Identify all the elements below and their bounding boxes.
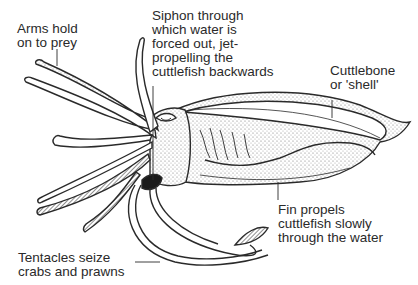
body-mantle [175, 92, 410, 185]
tentacles [128, 185, 268, 265]
label-fin: Fin propels cuttlefish slowly through th… [278, 203, 383, 245]
arms [25, 38, 158, 232]
label-siphon: Siphon through which water is forced out… [152, 9, 274, 79]
label-tentacles: Tentacles seize crabs and prawns [18, 251, 125, 279]
label-arms: Arms hold on to prey [17, 22, 78, 50]
label-cuttlebone: Cuttlebone or 'shell' [330, 64, 395, 92]
